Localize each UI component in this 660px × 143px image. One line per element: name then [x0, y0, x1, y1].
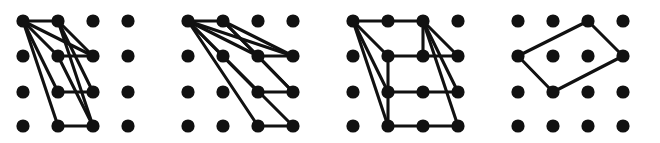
- lattice-point: [121, 14, 134, 27]
- lattice-point: [511, 119, 524, 132]
- panel-2: [181, 14, 299, 132]
- lattice-point: [381, 14, 394, 27]
- lattice-point: [181, 49, 194, 62]
- lattice-point: [346, 85, 359, 98]
- lattice-point: [581, 119, 594, 132]
- lattice-point: [286, 119, 299, 132]
- lattice-edge: [258, 56, 293, 92]
- lattice-point: [546, 49, 559, 62]
- lattice-point: [381, 85, 394, 98]
- lattice-point: [216, 14, 229, 27]
- lattice-point: [251, 49, 264, 62]
- lattice-point: [346, 49, 359, 62]
- lattice-point: [121, 49, 134, 62]
- lattice-edge: [588, 21, 623, 56]
- lattice-point: [51, 85, 64, 98]
- lattice-point: [416, 49, 429, 62]
- lattice-point: [216, 85, 229, 98]
- lattice-point: [381, 119, 394, 132]
- lattice-point: [416, 85, 429, 98]
- lattice-point: [451, 14, 464, 27]
- lattice-point: [51, 119, 64, 132]
- lattice-point: [16, 14, 29, 27]
- lattice-point: [286, 49, 299, 62]
- lattice-point: [546, 85, 559, 98]
- lattice-point: [181, 119, 194, 132]
- lattice-point: [416, 119, 429, 132]
- lattice-point: [181, 85, 194, 98]
- lattice-point: [511, 14, 524, 27]
- lattice-point: [616, 85, 629, 98]
- lattice-point: [16, 85, 29, 98]
- lattice-point: [251, 14, 264, 27]
- lattice-point: [511, 49, 524, 62]
- lattice-point: [451, 49, 464, 62]
- lattice-point: [251, 85, 264, 98]
- lattice-edge: [518, 56, 553, 92]
- lattice-point: [451, 119, 464, 132]
- lattice-edge: [188, 21, 258, 126]
- lattice-polygon-figure: [0, 0, 660, 143]
- figure-canvas: [0, 0, 660, 143]
- lattice-point: [86, 85, 99, 98]
- lattice-point: [286, 14, 299, 27]
- lattice-point: [251, 119, 264, 132]
- lattice-point: [581, 85, 594, 98]
- lattice-point: [616, 14, 629, 27]
- lattice-point: [511, 85, 524, 98]
- lattice-point: [51, 14, 64, 27]
- lattice-point: [16, 49, 29, 62]
- lattice-point: [86, 49, 99, 62]
- lattice-point: [16, 119, 29, 132]
- panel-4: [511, 14, 629, 132]
- lattice-point: [51, 49, 64, 62]
- lattice-point: [121, 85, 134, 98]
- lattice-point: [86, 14, 99, 27]
- lattice-point: [546, 14, 559, 27]
- lattice-point: [616, 119, 629, 132]
- lattice-point: [546, 119, 559, 132]
- lattice-point: [581, 49, 594, 62]
- lattice-point: [381, 49, 394, 62]
- lattice-point: [286, 85, 299, 98]
- panel-1: [16, 14, 134, 132]
- lattice-point: [346, 119, 359, 132]
- lattice-point: [216, 119, 229, 132]
- lattice-point: [346, 14, 359, 27]
- lattice-point: [121, 119, 134, 132]
- lattice-point: [216, 49, 229, 62]
- lattice-point: [86, 119, 99, 132]
- lattice-point: [616, 49, 629, 62]
- lattice-point: [581, 14, 594, 27]
- lattice-point: [416, 14, 429, 27]
- lattice-point: [451, 85, 464, 98]
- lattice-point: [181, 14, 194, 27]
- panel-3: [346, 14, 464, 132]
